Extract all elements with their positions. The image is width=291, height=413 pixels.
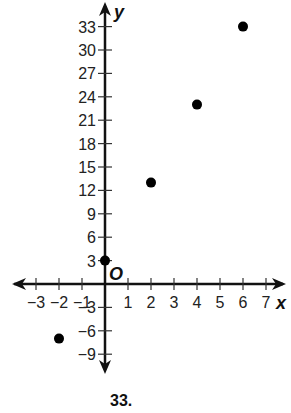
y-tick-label: 27	[78, 65, 96, 82]
y-tick-label: 15	[78, 159, 96, 176]
data-point	[146, 178, 156, 188]
x-tick-label: 3	[170, 294, 179, 311]
x-tick-label: −2	[50, 294, 68, 311]
y-tick-label: 24	[78, 89, 96, 106]
y-tick-label: −6	[78, 323, 96, 340]
origin-label: O	[109, 264, 123, 284]
y-tick-label: 12	[78, 182, 96, 199]
data-point	[238, 22, 248, 32]
y-tick-label: 33	[78, 19, 96, 36]
y-tick-label: 6	[87, 229, 96, 246]
y-tick-label: 9	[87, 206, 96, 223]
x-tick-label: −3	[27, 294, 45, 311]
y-axis-label: y	[113, 2, 125, 22]
y-tick-label: 30	[78, 42, 96, 59]
x-tick-label: 5	[216, 294, 225, 311]
x-tick-label: 6	[239, 294, 248, 311]
x-tick-label: 2	[147, 294, 156, 311]
y-tick-label: −3	[78, 299, 96, 316]
y-tick-label: −9	[78, 346, 96, 363]
x-tick-label: 1	[124, 294, 133, 311]
data-point	[192, 100, 202, 110]
problem-number: 33.	[110, 392, 132, 410]
y-tick-label: 18	[78, 136, 96, 153]
scatter-plot: −3−2−11234567−9−6−33691215182124273033xy…	[0, 0, 291, 413]
x-tick-label: 4	[193, 294, 202, 311]
x-axis-label: x	[275, 293, 287, 313]
data-point	[100, 256, 110, 266]
y-tick-label: 3	[87, 253, 96, 270]
y-tick-label: 21	[78, 112, 96, 129]
x-tick-label: 7	[262, 294, 271, 311]
data-point	[54, 334, 64, 344]
